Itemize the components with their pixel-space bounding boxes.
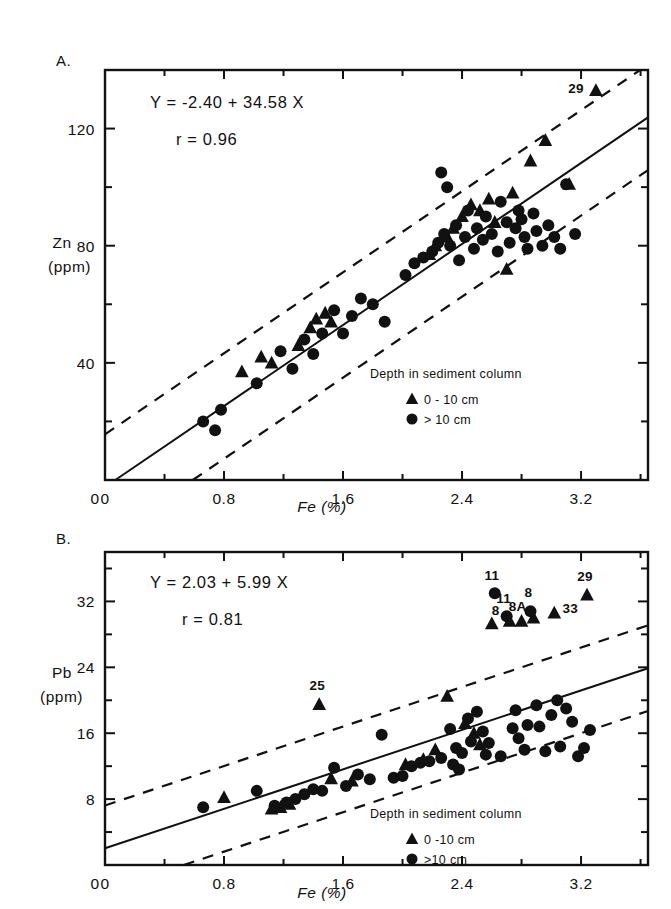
- x-tick-label: 0: [100, 875, 109, 892]
- data-point-circle: [584, 724, 596, 736]
- point-annotation: 8: [525, 585, 533, 600]
- regression-equation: Y = -2.40 + 34.58 X: [150, 93, 304, 111]
- data-point-circle: [480, 210, 492, 222]
- data-point-circle: [519, 744, 531, 756]
- data-point-circle: [209, 424, 221, 436]
- data-point-circle: [435, 167, 447, 179]
- y-tick-label: 32: [77, 593, 95, 610]
- data-point-circle: [480, 749, 492, 761]
- data-point-circle: [504, 237, 516, 249]
- data-point-circle: [495, 750, 507, 762]
- data-point-triangle: [312, 697, 326, 710]
- data-point-circle: [197, 415, 209, 427]
- legend-title: Depth in sediment column: [370, 807, 522, 821]
- data-point-circle: [516, 213, 528, 225]
- data-point-circle: [539, 745, 551, 757]
- y-tick-label: 8: [86, 791, 95, 808]
- y-tick-label: 120: [68, 121, 95, 138]
- legend-label-deep: > 10 cm: [424, 413, 471, 427]
- data-point-circle: [530, 225, 542, 237]
- data-point-circle: [453, 763, 465, 775]
- data-point-circle: [551, 694, 563, 706]
- data-point-circle: [471, 222, 483, 234]
- data-point-triangle: [254, 350, 268, 363]
- data-point-circle: [355, 292, 367, 304]
- point-annotation: 33: [563, 601, 579, 616]
- data-point-triangle: [539, 133, 553, 146]
- data-point-circle: [346, 310, 358, 322]
- data-point-circle: [519, 231, 531, 243]
- legend-triangle-icon: [406, 393, 418, 405]
- y-axis-label-line1: Zn: [52, 234, 71, 251]
- data-point-circle: [340, 780, 352, 792]
- point-annotation: 29: [568, 81, 583, 96]
- x-tick-label: 2.4: [451, 875, 474, 892]
- legend-label-shallow: 0 - 10 cm: [424, 393, 479, 407]
- regression-equation: Y = 2.03 + 5.99 X: [150, 573, 288, 591]
- data-point-circle: [536, 240, 548, 252]
- data-point-circle: [328, 304, 340, 316]
- regression-line: [105, 668, 648, 848]
- data-point-circle: [453, 254, 465, 266]
- legend-label-deep: >10 cm: [424, 853, 467, 867]
- data-point-circle: [459, 231, 471, 243]
- confidence-band-upper: [105, 625, 648, 805]
- data-point-triangle: [580, 588, 594, 601]
- data-point-circle: [286, 363, 298, 375]
- panel-a: A. 00.81.62.43.24080120029Y = -2.40 + 34…: [0, 0, 671, 530]
- data-point-circle: [545, 709, 557, 721]
- data-point-circle: [423, 755, 435, 767]
- data-point-circle: [465, 735, 477, 747]
- y-tick-label: 24: [77, 659, 95, 676]
- data-point-circle: [533, 721, 545, 733]
- x-tick-label: 0.8: [212, 875, 235, 892]
- data-point-circle: [527, 208, 539, 220]
- data-point-triangle: [217, 790, 231, 803]
- data-point-circle: [456, 747, 468, 759]
- data-point-circle: [215, 404, 227, 416]
- point-annotation: 8: [492, 603, 500, 618]
- data-point-circle: [462, 205, 474, 217]
- data-point-circle: [275, 345, 287, 357]
- legend-title: Depth in sediment column: [370, 367, 522, 381]
- data-point-circle: [521, 243, 533, 255]
- legend-circle-icon: [407, 854, 418, 865]
- y-tick-label: 80: [77, 238, 95, 255]
- data-point-circle: [542, 219, 554, 231]
- data-point-circle: [376, 729, 388, 741]
- legend-triangle-icon: [406, 833, 418, 845]
- data-point-triangle: [485, 616, 499, 629]
- data-point-circle: [560, 178, 572, 190]
- data-point-circle: [197, 801, 209, 813]
- data-point-circle: [438, 228, 450, 240]
- data-point-circle: [477, 726, 489, 738]
- y-axis-label-line1: Pb: [52, 664, 72, 681]
- data-point-circle: [397, 770, 409, 782]
- data-point-circle: [367, 298, 379, 310]
- data-point-circle: [364, 773, 376, 785]
- legend-label-shallow: 0 -10 cm: [424, 833, 475, 847]
- data-point-circle: [441, 181, 453, 193]
- data-point-circle: [548, 231, 560, 243]
- data-point-circle: [513, 732, 525, 744]
- data-point-circle: [492, 246, 504, 258]
- data-point-circle: [510, 704, 522, 716]
- data-point-circle: [560, 703, 572, 715]
- data-point-circle: [328, 762, 340, 774]
- data-point-circle: [554, 740, 566, 752]
- data-point-circle: [530, 699, 542, 711]
- data-point-circle: [486, 228, 498, 240]
- data-point-circle: [307, 348, 319, 360]
- data-point-triangle: [235, 364, 249, 377]
- data-point-triangle: [524, 154, 538, 167]
- point-annotation: 8A: [509, 599, 527, 614]
- x-axis-label: Fe (%): [297, 884, 347, 901]
- data-point-circle: [337, 328, 349, 340]
- data-point-circle: [316, 785, 328, 797]
- data-point-triangle: [506, 186, 520, 199]
- data-point-circle: [566, 716, 578, 728]
- data-point-circle: [316, 328, 328, 340]
- y-axis-label-line2: (ppm): [40, 688, 83, 705]
- panel-a-plot: 00.81.62.43.24080120029Y = -2.40 + 34.58…: [0, 0, 671, 530]
- data-point-triangle: [589, 83, 603, 96]
